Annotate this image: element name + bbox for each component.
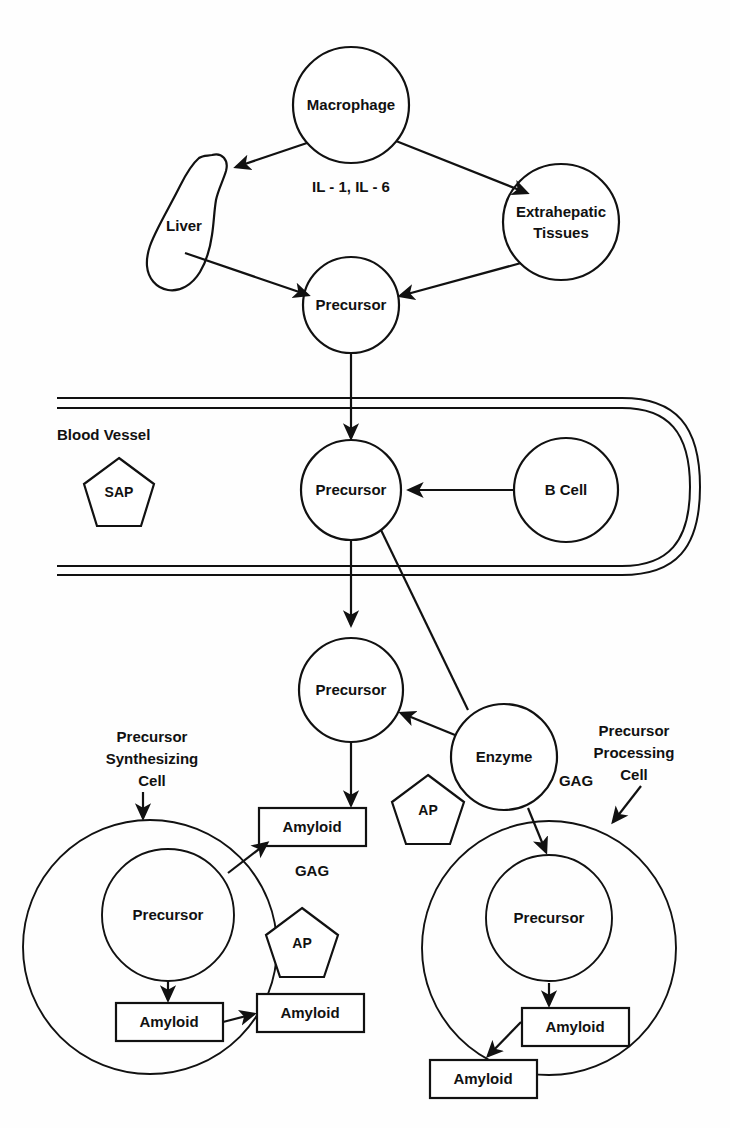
diagram-canvas: Macrophage IL - 1, IL - 6 Liver Extrahep… — [0, 0, 730, 1128]
label-proc-cell-line2: Processing — [594, 744, 675, 761]
label-amyloid-left-inner: Amyloid — [139, 1013, 198, 1030]
label-ap-left: AP — [292, 935, 311, 951]
label-precursor-mid: Precursor — [316, 681, 387, 698]
edge-liver-to-precursor — [185, 253, 308, 295]
label-amyloid-left-outer: Amyloid — [280, 1004, 339, 1021]
label-amyloid-mid: Amyloid — [282, 818, 341, 835]
label-amyloid-right-inner: Amyloid — [545, 1018, 604, 1035]
label-amyloid-right-outer: Amyloid — [453, 1070, 512, 1087]
label-blood-vessel: Blood Vessel — [57, 426, 150, 443]
label-precursor-right-cell: Precursor — [514, 909, 585, 926]
edge-enzyme-to-precursor-mid — [401, 713, 455, 735]
edge-macrophage-to-extrahepatic — [396, 141, 527, 193]
label-enzyme: Enzyme — [476, 748, 533, 765]
edge-left-precursor-to-amyloid-mid — [228, 843, 267, 873]
pathway-diagram: Macrophage IL - 1, IL - 6 Liver Extrahep… — [0, 0, 730, 1128]
label-extrahepatic-tissues: Tissues — [533, 224, 589, 241]
label-proc-cell-line1: Precursor — [599, 722, 670, 739]
label-gag-right: GAG — [559, 772, 593, 789]
edge-amyloid-inner-to-outer-right — [488, 1022, 521, 1056]
label-ap-mid: AP — [418, 802, 437, 818]
edge-macrophage-to-liver — [236, 143, 307, 167]
edge-extrahepatic-to-precursor — [400, 263, 521, 296]
label-synth-cell-line3: Cell — [138, 772, 166, 789]
label-liver: Liver — [166, 217, 202, 234]
label-b-cell: B Cell — [545, 481, 588, 498]
label-macrophage: Macrophage — [307, 96, 395, 113]
pointer-processing-cell — [613, 786, 641, 822]
label-proc-cell-line3: Cell — [620, 766, 648, 783]
label-precursor-top: Precursor — [316, 296, 387, 313]
label-cytokines: IL - 1, IL - 6 — [312, 178, 390, 195]
label-precursor-vessel: Precursor — [316, 481, 387, 498]
label-sap: SAP — [105, 484, 134, 500]
label-precursor-left-cell: Precursor — [133, 906, 204, 923]
label-synth-cell-line1: Precursor — [117, 728, 188, 745]
edge-enzyme-to-processing-cell — [528, 808, 546, 852]
edge-amyloid-inner-to-outer-left — [223, 1014, 254, 1022]
label-extrahepatic: Extrahepatic — [516, 203, 606, 220]
label-synth-cell-line2: Synthesizing — [106, 750, 199, 767]
label-gag-left: GAG — [295, 862, 329, 879]
